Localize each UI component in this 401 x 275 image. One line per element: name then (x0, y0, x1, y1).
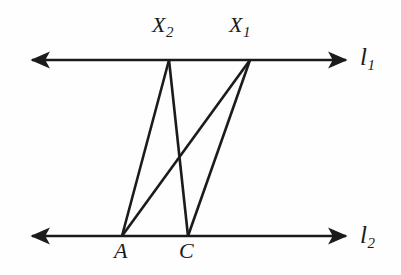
point-label-x2-base: X (152, 12, 165, 37)
point-label-x1-base: X (229, 12, 242, 37)
line-label-l2: l2 (360, 222, 375, 251)
line-label-l2-subscript: 2 (367, 235, 375, 251)
point-label-c: C (179, 240, 194, 262)
segment-c-x1 (188, 60, 250, 236)
point-label-a-base: A (114, 238, 127, 263)
line-label-l1-base: l (360, 43, 367, 70)
point-label-c-base: C (179, 238, 194, 263)
point-label-x1: X1 (229, 14, 250, 40)
line-label-l2-base: l (360, 221, 367, 248)
line-label-l1-subscript: 1 (367, 57, 375, 73)
point-label-x2: X2 (152, 14, 173, 40)
geometry-figure: X2 X1 l1 l2 A C (0, 0, 401, 275)
figure-canvas (0, 0, 401, 275)
line-label-l1: l1 (360, 44, 375, 73)
segment-a-x2 (122, 60, 169, 236)
point-label-a: A (114, 240, 127, 262)
point-label-x1-subscript: 1 (243, 24, 251, 40)
point-label-x2-subscript: 2 (166, 24, 174, 40)
